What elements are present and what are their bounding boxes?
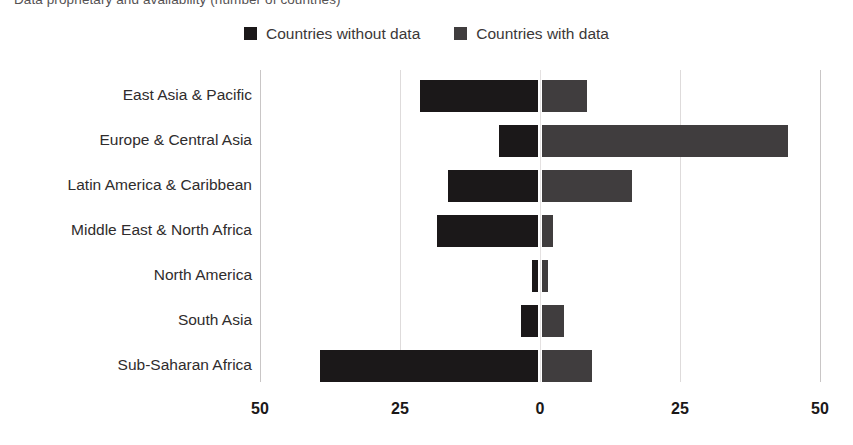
- bar-with-data-south-asia[interactable]: [542, 305, 564, 337]
- legend-item-with-data[interactable]: Countries with data: [454, 26, 609, 42]
- bar-with-data-east-asia-pacific[interactable]: [542, 80, 587, 112]
- chart-row: East Asia & Pacific: [0, 70, 853, 115]
- bar-without-data-east-asia-pacific[interactable]: [420, 80, 538, 112]
- category-label-south-asia: South Asia: [0, 304, 252, 336]
- chart-row: Sub-Saharan Africa: [0, 340, 853, 385]
- chart-legend: Countries without data Countries with da…: [0, 26, 853, 42]
- x-tick-label-25: 25: [671, 398, 689, 420]
- chart-row: Middle East & North Africa: [0, 205, 853, 250]
- x-tick-label-0: 0: [536, 398, 545, 420]
- chart-row: Europe & Central Asia: [0, 115, 853, 160]
- legend-item-without-data[interactable]: Countries without data: [244, 26, 420, 42]
- bar-without-data-sub-saharan-africa[interactable]: [320, 350, 538, 382]
- legend-swatch-square-with-data: [454, 27, 467, 40]
- bar-without-data-europe-central-asia[interactable]: [499, 125, 538, 157]
- bar-with-data-sub-saharan-africa[interactable]: [542, 350, 592, 382]
- category-label-latin-america-caribbean: Latin America & Caribbean: [0, 169, 252, 201]
- bar-without-data-middle-east-north-africa[interactable]: [437, 215, 538, 247]
- chart-row: South Asia: [0, 295, 853, 340]
- chart-title: Data proprietary and availability (numbe…: [0, 0, 853, 9]
- bar-with-data-latin-america-caribbean[interactable]: [542, 170, 632, 202]
- bar-with-data-north-america[interactable]: [542, 260, 548, 292]
- bar-without-data-north-america[interactable]: [532, 260, 538, 292]
- x-tick-label--25: 25: [391, 398, 409, 420]
- legend-label-with-data: Countries with data: [476, 26, 609, 42]
- chart-title-text: Data proprietary and availability (numbe…: [0, 0, 853, 9]
- legend-swatch-square-without-data: [244, 27, 257, 40]
- category-label-east-asia-pacific: East Asia & Pacific: [0, 79, 252, 111]
- bar-without-data-south-asia[interactable]: [521, 305, 538, 337]
- bar-with-data-europe-central-asia[interactable]: [542, 125, 788, 157]
- bar-without-data-latin-america-caribbean[interactable]: [448, 170, 538, 202]
- x-axis-ticks: 50 25 0 25 50: [0, 398, 853, 428]
- bar-with-data-middle-east-north-africa[interactable]: [542, 215, 553, 247]
- chart-row: Latin America & Caribbean: [0, 160, 853, 205]
- x-tick-label--50: 50: [251, 398, 269, 420]
- category-label-europe-central-asia: Europe & Central Asia: [0, 124, 252, 156]
- x-tick-label-50: 50: [811, 398, 829, 420]
- legend-label-without-data: Countries without data: [266, 26, 420, 42]
- category-label-sub-saharan-africa: Sub-Saharan Africa: [0, 349, 252, 381]
- category-label-north-america: North America: [0, 259, 252, 291]
- plot-area: East Asia & Pacific Europe & Central Asi…: [0, 70, 853, 390]
- chart-row: North America: [0, 250, 853, 295]
- category-label-middle-east-north-africa: Middle East & North Africa: [0, 214, 252, 246]
